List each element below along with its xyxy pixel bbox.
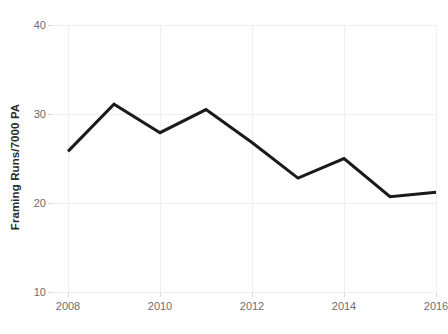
x-tick-mark	[436, 293, 437, 297]
x-axis-tick-labels: 20082010201220142016	[0, 300, 448, 320]
x-tick-mark	[160, 293, 161, 297]
y-tick-mark	[48, 203, 52, 204]
x-tick-label: 2008	[56, 300, 80, 312]
y-tick-mark	[48, 292, 52, 293]
x-tick-label: 2012	[240, 300, 264, 312]
series-polyline	[68, 104, 436, 197]
y-tick-mark	[48, 114, 52, 115]
plot-area	[52, 25, 437, 293]
x-tick-mark	[68, 293, 69, 297]
y-tick-label: 40	[6, 19, 46, 31]
x-tick-label: 2014	[332, 300, 356, 312]
series-line-framing-runs	[52, 25, 437, 293]
y-tick-label: 30	[6, 108, 46, 120]
y-tick-label: 10	[6, 286, 46, 298]
x-tick-mark	[252, 293, 253, 297]
x-tick-label: 2016	[424, 300, 448, 312]
line-chart: Framing Runs/7000 PA 10203040 2008201020…	[0, 0, 448, 334]
y-tick-mark	[48, 25, 52, 26]
y-axis-tick-labels: 10203040	[0, 0, 46, 334]
y-tick-label: 20	[6, 197, 46, 209]
x-tick-label: 2010	[148, 300, 172, 312]
x-tick-mark	[344, 293, 345, 297]
